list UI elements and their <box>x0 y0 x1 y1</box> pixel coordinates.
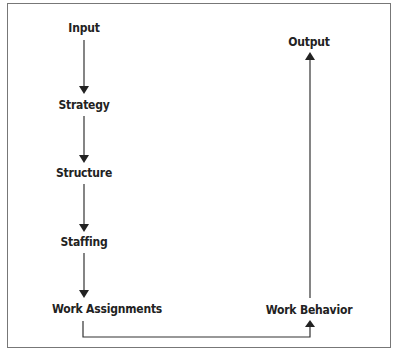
node-output: Output <box>288 35 329 49</box>
arrowhead-up-icon <box>305 320 315 327</box>
arrowhead-down-icon <box>79 290 89 298</box>
arrowhead-down-icon <box>79 155 89 163</box>
node-work-behavior: Work Behavior <box>266 303 353 317</box>
node-structure: Structure <box>56 166 112 180</box>
arrowhead-down-icon <box>79 224 89 232</box>
node-work-assignments: Work Assignments <box>52 302 162 316</box>
node-input: Input <box>68 21 99 35</box>
arrowhead-down-icon <box>79 86 89 94</box>
node-staffing: Staffing <box>60 235 107 249</box>
arrowhead-up-icon <box>305 52 315 60</box>
node-strategy: Strategy <box>58 98 109 112</box>
